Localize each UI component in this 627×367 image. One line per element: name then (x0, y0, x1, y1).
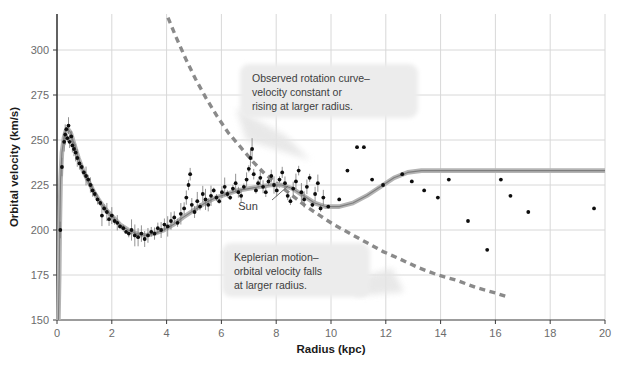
data-point (60, 165, 64, 169)
data-point (198, 205, 202, 209)
data-point (190, 203, 194, 207)
data-point (64, 127, 68, 131)
data-point (297, 169, 301, 173)
data-point (239, 194, 243, 198)
data-point (226, 192, 230, 196)
data-point (96, 198, 100, 202)
data-point (245, 178, 249, 182)
data-point (264, 190, 268, 194)
data-point (321, 196, 325, 200)
data-point (204, 198, 208, 202)
data-point (80, 165, 84, 169)
data-point (91, 189, 95, 193)
data-point (143, 237, 147, 241)
data-point (300, 190, 304, 194)
data-point (182, 207, 186, 211)
data-point (188, 172, 192, 176)
data-point (242, 185, 246, 189)
data-point (58, 228, 62, 232)
data-point (127, 232, 131, 236)
data-point (195, 199, 199, 203)
rotation-curve-figure: 02468101214161820150175200225250275300 R… (0, 0, 627, 367)
data-point (436, 196, 440, 200)
data-point (193, 210, 197, 214)
data-point (337, 198, 341, 202)
data-point (346, 169, 350, 173)
data-point (370, 178, 374, 182)
data-point (100, 214, 104, 218)
x-tick-label: 8 (273, 327, 279, 339)
keplerian-annotation-line-2: orbital velocity falls (234, 265, 322, 277)
data-point (261, 185, 265, 189)
data-point (249, 156, 253, 160)
data-point (283, 181, 287, 185)
data-point (78, 162, 82, 166)
x-tick-label: 0 (54, 327, 60, 339)
data-point (258, 176, 262, 180)
data-point (201, 192, 205, 196)
data-point (275, 189, 279, 193)
data-point (121, 226, 125, 230)
x-axis-title: Radius (kpc) (296, 343, 365, 355)
data-point (89, 183, 93, 187)
data-point (72, 147, 76, 151)
data-point (156, 226, 160, 230)
data-point (447, 178, 451, 182)
y-axis-title: Orbital velocity (km/s) (8, 107, 20, 227)
data-point (63, 133, 67, 137)
data-point (66, 136, 70, 140)
x-tick-label: 6 (218, 327, 224, 339)
data-point (187, 183, 191, 187)
data-point (269, 174, 273, 178)
x-tick-label: 2 (109, 327, 115, 339)
data-point (215, 196, 219, 200)
data-point (179, 212, 183, 216)
data-point (250, 147, 254, 151)
data-point (98, 201, 102, 205)
data-point (319, 207, 323, 211)
data-point (86, 178, 90, 182)
data-point (286, 194, 290, 198)
y-tick-label: 250 (31, 134, 49, 146)
data-point (130, 228, 134, 232)
data-point (526, 210, 530, 214)
y-tick-label: 225 (31, 179, 49, 191)
data-point (592, 207, 596, 211)
data-point (252, 172, 256, 176)
data-point (82, 171, 86, 175)
data-point (169, 219, 173, 223)
x-tick-label: 14 (434, 327, 446, 339)
figure-background (0, 0, 627, 367)
data-point (153, 232, 157, 236)
data-point (62, 140, 66, 144)
x-tick-label: 12 (380, 327, 392, 339)
data-point (310, 203, 314, 207)
x-tick-label: 10 (325, 327, 337, 339)
data-point (355, 145, 359, 149)
data-point (69, 135, 73, 139)
data-point (133, 234, 137, 238)
data-point (272, 183, 276, 187)
x-tick-label: 18 (544, 327, 556, 339)
observed-annotation-line-3: rising at larger radius. (252, 100, 353, 112)
data-point (172, 216, 176, 220)
data-point (209, 194, 213, 198)
data-point (136, 235, 140, 239)
data-point (509, 194, 513, 198)
data-point (294, 180, 298, 184)
chart-canvas: 02468101214161820150175200225250275300 R… (0, 0, 627, 367)
data-point (105, 210, 109, 214)
data-point (422, 189, 426, 193)
data-point (291, 187, 295, 191)
x-tick-label: 20 (599, 327, 611, 339)
data-point (247, 167, 251, 171)
data-point (362, 145, 366, 149)
data-point (206, 203, 210, 207)
data-point (115, 221, 119, 225)
data-point (381, 183, 385, 187)
data-point (410, 180, 414, 184)
data-point (256, 181, 260, 185)
data-point (110, 214, 114, 218)
data-point (231, 187, 235, 191)
data-point (102, 207, 106, 211)
